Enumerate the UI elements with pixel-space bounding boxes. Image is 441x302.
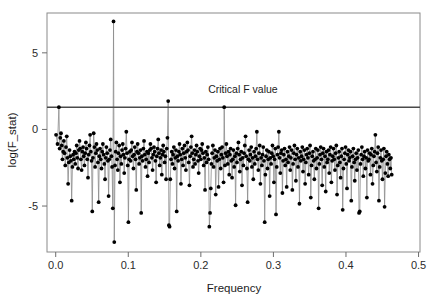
x-tick-label: 0.3 [266,259,281,271]
y-tick-label: 0 [32,123,38,135]
x-tick-label: 0.4 [338,259,353,271]
x-tick-label: 0.0 [48,259,63,271]
y-tick-label: 5 [32,47,38,59]
x-axis-title: Frequency [207,282,262,294]
critical-f-value-label-group: Critical F value [208,83,278,95]
scatter-line-chart: 0.00.10.20.30.40.5 50-5 Critical F value… [0,0,441,302]
figure-panel: 0.00.10.20.30.40.5 50-5 Critical F value… [0,0,441,302]
x-tick-label: 0.5 [411,259,426,271]
y-tick-label: -5 [28,200,38,212]
x-tick-label: 0.2 [193,259,208,271]
x-tick-label: 0.1 [121,259,136,271]
critical-f-value-label: Critical F value [208,83,278,95]
y-axis-title: log(F_stat) [6,112,18,167]
